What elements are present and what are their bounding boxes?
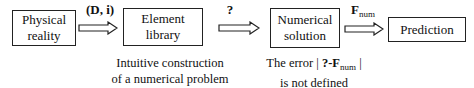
element-library-box: Element library [123,8,203,46]
note-right-line1: The error | ?-Fnum | [254,55,374,75]
element-library-line2: library [141,27,184,43]
physical-reality-box: Physical reality [12,10,76,46]
arrow-2-label: ? [224,2,236,18]
prediction-label: Prediction [400,22,453,38]
intuitive-construction-note: Intuitive construction of a numerical pr… [108,55,232,87]
numerical-solution-line1: Numerical [278,12,333,28]
numerical-solution-box: Numerical solution [270,8,340,48]
label-F: F [351,2,359,17]
arrow-1-label: (D, i) [80,2,120,18]
arrow-3-label: Fnum [346,2,380,19]
note-right-suffix: | [356,56,362,70]
note-right-bold: ?-F [322,56,340,70]
label-D: D [90,2,99,17]
note-right-line2: is not defined [254,75,374,88]
note-right-sub: num [340,62,356,72]
prediction-box: Prediction [388,17,466,42]
numerical-solution-line2: solution [278,28,333,44]
label-num: num [359,9,375,19]
note-left-line2: of a numerical problem [108,71,232,87]
arrow-2-icon [218,21,260,35]
paren-close: ) [110,2,114,17]
note-right-prefix: The error | [266,56,322,70]
element-library-line1: Element [141,11,184,27]
arrow-1-icon [78,21,118,35]
physical-reality-line2: reality [22,28,66,44]
physical-reality-line1: Physical [22,12,66,28]
note-left-line1: Intuitive construction [108,55,232,71]
error-not-defined-note: The error | ?-Fnum | is not defined [254,55,374,88]
arrow-3-icon [344,22,384,36]
